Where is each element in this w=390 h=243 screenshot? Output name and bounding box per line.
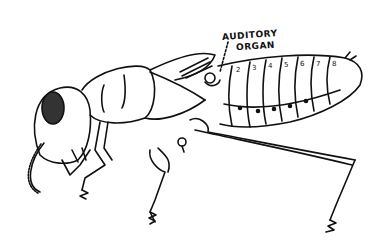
segment-number: 6 [300,60,305,68]
segment-number: 4 [268,62,273,70]
segment-number: 7 [316,60,320,68]
pronotum [82,66,155,123]
segment-number: 5 [284,61,288,69]
segment-number: 3 [252,64,256,72]
segment-number: 8 [332,60,336,68]
segment-number: 2 [236,66,240,74]
auditory-organ [205,73,215,83]
compound-eye [42,92,64,124]
grasshopper-illustration: 2 3 4 5 6 7 8 [0,0,390,243]
middle-leg [150,150,165,222]
grasshopper-diagram: 2 3 4 5 6 7 8 AUDITORY ORGAN [0,0,390,243]
